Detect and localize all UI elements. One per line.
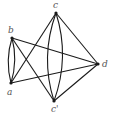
label-c-bottom: c': [51, 104, 59, 114]
edge-a-b-left: [8, 38, 12, 83]
vertex-c-bottom: [52, 99, 55, 102]
edge-a-d: [11, 64, 98, 83]
edges: [8, 13, 98, 101]
vertex-d: [96, 62, 99, 65]
edge-cprime-d: [54, 64, 98, 101]
label-c-top: c: [53, 0, 58, 10]
edge-b-d: [12, 38, 98, 64]
label-d: d: [102, 59, 108, 69]
vertex-a: [9, 81, 12, 84]
vertices: [9, 11, 99, 102]
graph-diagram: c b a c' d: [0, 0, 118, 117]
edge-a-b-right: [11, 38, 15, 83]
label-a: a: [7, 87, 12, 97]
vertex-b: [10, 36, 13, 39]
edge-c-a: [11, 13, 56, 83]
edge-c-cprime-left: [47, 13, 56, 101]
vertex-c-top: [54, 11, 57, 14]
edge-c-cprime-right: [54, 13, 63, 101]
label-b: b: [8, 25, 14, 35]
